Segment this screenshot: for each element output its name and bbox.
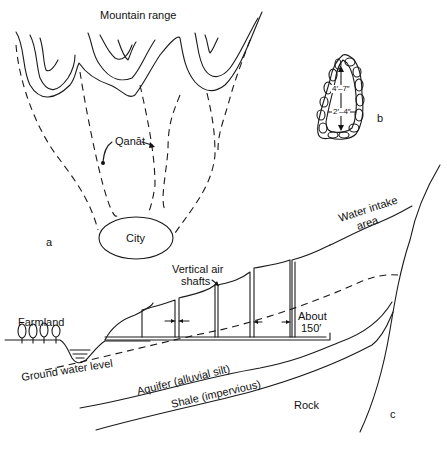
arrowhead-icon: [101, 161, 105, 165]
rock-label: Rock: [294, 399, 320, 411]
about-label-line1: About: [298, 310, 327, 322]
arrowhead-icon: [149, 142, 155, 148]
width-dimension-label: 2′–4″: [333, 107, 351, 116]
qanat-arrow-left: [103, 142, 112, 162]
vertical-air-shafts-label-line2: shafts: [181, 275, 211, 287]
about-label-line2: 150′: [301, 322, 321, 334]
spacing-arrows: [254, 320, 290, 324]
panel-a-plan-view: Mountain range City Qanāt: [16, 9, 262, 259]
qanat-diagram: Mountain range City Qanāt: [0, 0, 447, 451]
mountain-range-label: Mountain range: [100, 9, 176, 21]
arrowhead-icon: [338, 125, 344, 131]
panel-c-longitudinal-section: Farmland Ground water level Aquifer (all…: [5, 165, 440, 432]
panel-a-marker: a: [46, 236, 53, 248]
shaft-gap-arrows: [165, 319, 189, 323]
vertical-air-shafts-label-line1: Vertical air: [172, 263, 224, 275]
ground-water-level-label: Ground water level: [20, 357, 113, 383]
qanat-label: Qanāt: [115, 135, 145, 147]
mountain-contours: [16, 12, 262, 97]
ground-water-level-line: [45, 275, 398, 370]
panel-c-marker: c: [390, 408, 396, 420]
city-label: City: [126, 232, 145, 244]
panel-b-cross-section: 4′–7″ 2′–4″ b: [317, 55, 383, 140]
water-pool: [70, 350, 90, 358]
height-dimension-label: 4′–7″: [332, 84, 350, 93]
panel-b-marker: b: [377, 112, 383, 124]
